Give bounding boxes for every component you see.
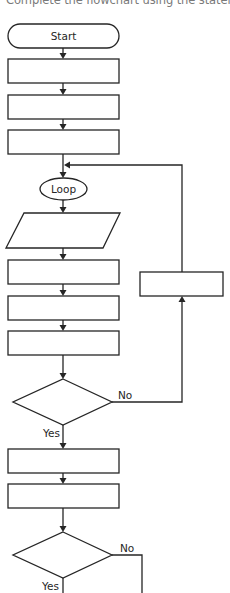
arrow-left-icon — [64, 162, 70, 169]
arrow-down-icon — [60, 53, 67, 59]
decision-diamond-2[interactable] — [13, 532, 112, 578]
start-terminator: Start — [8, 24, 119, 48]
start-label: Start — [51, 30, 77, 42]
process-box-6[interactable] — [8, 331, 119, 355]
process-box-4[interactable] — [8, 260, 119, 284]
decision-diamond-1[interactable] — [13, 379, 112, 425]
process-box-1[interactable] — [8, 59, 119, 83]
arrow-down-icon — [60, 325, 67, 331]
flowchart: Start Loop No Yes — [0, 0, 230, 593]
loop-connector: Loop — [40, 178, 87, 200]
decision-1-yes-label: Yes — [42, 427, 60, 439]
decision-1-no-label: No — [118, 389, 132, 401]
process-box-7[interactable] — [8, 449, 119, 473]
process-box-2[interactable] — [8, 95, 119, 119]
arrow-down-icon — [60, 526, 67, 532]
arrow-down-icon — [60, 207, 67, 213]
decision-2-yes-label: Yes — [41, 580, 59, 592]
process-box-5[interactable] — [8, 296, 119, 320]
arrow-down-icon — [60, 478, 67, 484]
loop-label: Loop — [51, 183, 77, 195]
loop-back-box[interactable] — [140, 272, 223, 296]
arrow-up-icon — [179, 296, 186, 302]
arrow-down-icon — [60, 443, 67, 449]
process-box-8[interactable] — [8, 484, 119, 508]
process-box-3[interactable] — [8, 130, 119, 154]
decision-2-no-label: No — [120, 542, 134, 554]
arrow-down-icon — [60, 172, 67, 178]
arrow-down-icon — [60, 254, 67, 260]
arrow-down-icon — [60, 89, 67, 95]
input-output-shape[interactable] — [6, 213, 120, 248]
arrow-down-icon — [60, 373, 67, 379]
arrow-down-icon — [60, 290, 67, 296]
arrow-down-icon — [60, 124, 67, 130]
